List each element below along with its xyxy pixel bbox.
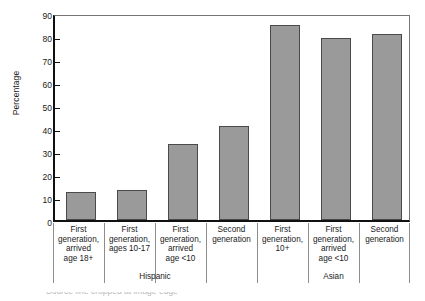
bar-slot	[361, 16, 412, 220]
y-tick-label: 10	[43, 196, 55, 205]
y-tick-50: 50	[33, 108, 55, 109]
category-label-line: First	[104, 225, 155, 235]
y-axis-title: Percentage	[11, 33, 21, 153]
y-tick-label: 40	[43, 127, 55, 136]
y-tick-80: 80	[33, 39, 55, 40]
y-tick-label: 90	[43, 12, 55, 21]
bar[interactable]	[168, 144, 198, 220]
y-tick-60: 60	[33, 85, 55, 86]
category-label-line: First	[308, 225, 359, 235]
bar[interactable]	[372, 34, 402, 220]
category-label: Firstgeneration,ages 10-17	[104, 222, 155, 270]
category-label-line: generation,	[257, 235, 308, 245]
bar-slot	[310, 16, 361, 220]
category-label-line: First	[155, 225, 206, 235]
bars-layer	[55, 16, 409, 220]
group-label-asian: Asian	[257, 272, 410, 282]
category-label: Firstgeneration,10+	[257, 222, 308, 270]
bar[interactable]	[66, 192, 96, 220]
y-tick-20: 20	[33, 177, 55, 178]
y-tick-label: 30	[43, 150, 55, 159]
y-tick-label: 20	[43, 173, 55, 182]
bar[interactable]	[219, 126, 249, 220]
category-label-line: age 18+	[53, 254, 104, 264]
bar[interactable]	[321, 38, 351, 220]
y-tick-label: 70	[43, 58, 55, 67]
category-label-line: First	[53, 225, 104, 235]
y-tick-0: 0	[33, 223, 55, 224]
bar-slot	[259, 16, 310, 220]
category-label-line: age <10	[308, 254, 359, 264]
bar[interactable]	[117, 190, 147, 220]
y-tick-90: 90	[33, 16, 55, 17]
category-label-line: arrived	[308, 244, 359, 254]
category-label-line: generation	[359, 235, 410, 245]
category-label-line: arrived	[53, 244, 104, 254]
y-tick-label: 80	[43, 35, 55, 44]
y-tick-40: 40	[33, 131, 55, 132]
category-label: Secondgeneration	[206, 222, 257, 270]
bar-slot	[106, 16, 157, 220]
category-label: Firstgeneration,arrivedage 18+	[53, 222, 104, 270]
plot-area: 0102030405060708090	[53, 15, 410, 222]
category-label: Secondgeneration	[359, 222, 410, 270]
y-tick-label: 60	[43, 81, 55, 90]
category-axis: Firstgeneration,arrivedage 18+Firstgener…	[53, 222, 410, 284]
bar-slot	[208, 16, 259, 220]
y-tick-10: 10	[33, 200, 55, 201]
category-label-line: 10+	[257, 244, 308, 254]
bar-slot	[55, 16, 106, 220]
y-tick-30: 30	[33, 154, 55, 155]
y-tick-label: 50	[43, 104, 55, 113]
bar-chart-figure: Percentage 0102030405060708090 Firstgene…	[0, 0, 425, 301]
bar[interactable]	[270, 25, 300, 221]
category-label-line: age <10	[155, 254, 206, 264]
category-label-line: generation,	[53, 235, 104, 245]
category-label-line: Second	[206, 225, 257, 235]
category-label-line: generation,	[104, 235, 155, 245]
category-label-line: generation,	[308, 235, 359, 245]
y-tick-70: 70	[33, 62, 55, 63]
cropped-footer-text: Source line cropped at image edge	[46, 292, 386, 301]
category-label: Firstgeneration,arrivedage <10	[308, 222, 359, 270]
category-label-line: ages 10-17	[104, 244, 155, 254]
category-label-line: generation,	[155, 235, 206, 245]
category-label-line: First	[257, 225, 308, 235]
category-label: Firstgeneration,arrivedage <10	[155, 222, 206, 270]
category-label-line: Second	[359, 225, 410, 235]
category-label-line: arrived	[155, 244, 206, 254]
category-label-line: generation	[206, 235, 257, 245]
bar-slot	[157, 16, 208, 220]
cropped-footer-label: Source line cropped at image edge	[46, 292, 386, 296]
group-label-hispanic: Hispanic	[53, 272, 257, 282]
